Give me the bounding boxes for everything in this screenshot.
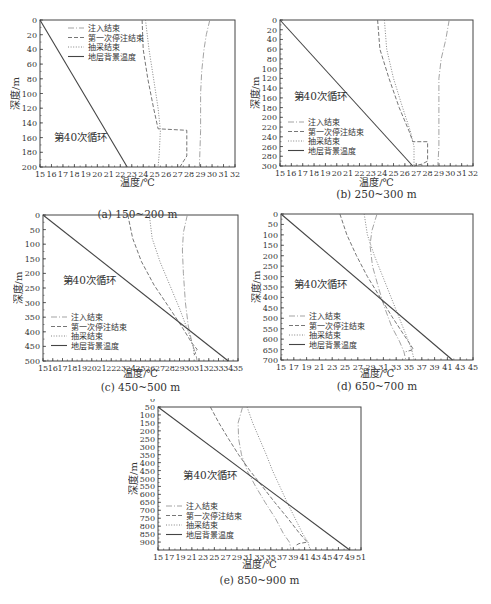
svg-text:450: 450 <box>263 304 278 313</box>
svg-text:地层背景温度: 地层背景温度 <box>308 146 356 156</box>
panel-caption-b: (b) 250~300 m <box>280 188 473 200</box>
chart-svg-b: 1516171819202122232425262728293031320204… <box>250 12 481 180</box>
svg-text:300: 300 <box>263 273 278 282</box>
svg-text:地层背景温度: 地层背景温度 <box>88 52 136 62</box>
cycle-label: 第40次循环 <box>63 274 116 286</box>
svg-text:抽采结束: 抽采结束 <box>186 520 218 530</box>
svg-text:50: 50 <box>268 220 278 229</box>
svg-text:第一次停注结束: 第一次停注结束 <box>71 322 127 332</box>
cycle-label: 第40次循环 <box>183 469 236 481</box>
svg-text:地层背景温度: 地层背景温度 <box>186 530 234 540</box>
series-dotted <box>146 20 161 167</box>
svg-text:0: 0 <box>273 210 278 219</box>
svg-text:40: 40 <box>267 35 277 44</box>
series-dotted <box>384 20 414 166</box>
svg-text:20: 20 <box>27 31 37 40</box>
svg-text:注入结束: 注入结束 <box>308 117 340 127</box>
svg-text:400: 400 <box>263 293 278 302</box>
svg-text:100: 100 <box>25 240 40 249</box>
svg-text:120: 120 <box>262 74 277 83</box>
y-axis-label: 深度/m <box>128 462 139 495</box>
svg-text:第一次停注结束: 第一次停注结束 <box>309 321 365 331</box>
svg-text:150: 150 <box>263 241 278 250</box>
svg-text:180: 180 <box>22 148 37 157</box>
svg-text:40: 40 <box>27 45 37 54</box>
svg-text:250: 250 <box>25 284 40 293</box>
svg-text:550: 550 <box>263 325 278 334</box>
svg-text:地层背景温度: 地层背景温度 <box>309 340 357 350</box>
series-dash-dot <box>199 20 209 167</box>
cycle-label: 第40次循环 <box>294 278 347 290</box>
svg-text:120: 120 <box>22 104 37 113</box>
svg-text:抽采结束: 抽采结束 <box>309 330 341 340</box>
svg-text:500: 500 <box>25 357 40 366</box>
chart-panel-e: 1517192123252729313335373941434547495105… <box>128 399 369 568</box>
cycle-label: 第40次循环 <box>294 90 347 102</box>
chart-panel-a: 1516171819202122232425262728293031320204… <box>10 12 243 185</box>
svg-text:200: 200 <box>25 269 40 278</box>
svg-text:50: 50 <box>30 226 40 235</box>
x-axis-label: 温度/℃ <box>158 556 361 571</box>
svg-text:第一次停注结束: 第一次停注结束 <box>186 511 242 521</box>
x-axis-label: 温度/℃ <box>40 174 235 189</box>
svg-text:100: 100 <box>22 90 37 99</box>
svg-text:500: 500 <box>263 314 278 323</box>
svg-text:140: 140 <box>22 119 37 128</box>
chart-svg-a: 1516171819202122232425262728293031320204… <box>10 12 243 181</box>
series-dotted <box>364 214 414 360</box>
series-dash-dot <box>370 214 406 360</box>
svg-text:350: 350 <box>263 283 278 292</box>
svg-text:350: 350 <box>25 313 40 322</box>
series-dash-dot <box>238 407 291 550</box>
svg-text:100: 100 <box>263 231 278 240</box>
svg-text:第一次停注结束: 第一次停注结束 <box>308 127 364 137</box>
svg-text:20: 20 <box>267 26 277 35</box>
x-axis-label: 温度/℃ <box>281 365 473 380</box>
series-dotted <box>247 407 310 548</box>
svg-text:260: 260 <box>262 143 277 152</box>
svg-text:注入结束: 注入结束 <box>88 23 120 33</box>
x-axis-label: 温度/℃ <box>280 174 473 189</box>
panel-caption-e: (e) 850~900 m <box>158 574 361 586</box>
svg-text:160: 160 <box>262 94 277 103</box>
svg-text:80: 80 <box>27 75 37 84</box>
legend: 注入结束第一次停注结束抽采结束地层背景温度 <box>68 23 144 62</box>
svg-text:0: 0 <box>272 16 277 25</box>
chart-panel-b: 1516171819202122232425262728293031320204… <box>250 12 481 184</box>
svg-text:第一次停注结束: 第一次停注结束 <box>88 33 144 43</box>
svg-text:300: 300 <box>262 162 277 171</box>
svg-text:60: 60 <box>267 45 277 54</box>
legend: 注入结束第一次停注结束抽采结束地层背景温度 <box>51 312 127 351</box>
svg-text:450: 450 <box>25 342 40 351</box>
svg-text:160: 160 <box>22 134 37 143</box>
svg-text:700: 700 <box>263 356 278 365</box>
svg-text:注入结束: 注入结束 <box>71 312 103 322</box>
svg-text:80: 80 <box>267 55 277 64</box>
svg-text:0: 0 <box>32 16 37 25</box>
series-dashed <box>128 215 197 355</box>
svg-text:200: 200 <box>263 252 278 261</box>
svg-text:注入结束: 注入结束 <box>186 501 218 511</box>
svg-text:220: 220 <box>262 123 277 132</box>
chart-svg-c: 1516171819202122232425262728293031323334… <box>13 207 246 375</box>
svg-text:抽采结束: 抽采结束 <box>88 42 120 52</box>
panel-caption-d: (d) 650~700 m <box>281 380 473 392</box>
series-dash-dot <box>438 20 449 166</box>
svg-text:400: 400 <box>25 328 40 337</box>
svg-text:200: 200 <box>262 113 277 122</box>
svg-text:地层背景温度: 地层背景温度 <box>71 341 119 351</box>
svg-text:240: 240 <box>262 133 277 142</box>
svg-text:100: 100 <box>262 65 277 74</box>
series-dotted <box>149 215 194 355</box>
panel-caption-c: (c) 450~500 m <box>43 381 238 393</box>
series-dashed <box>378 20 428 166</box>
svg-text:650: 650 <box>263 346 278 355</box>
svg-text:抽采结束: 抽采结束 <box>71 331 103 341</box>
legend: 注入结束第一次停注结束抽采结束地层背景温度 <box>289 311 365 350</box>
legend: 注入结束第一次停注结束抽采结束地层背景温度 <box>288 117 364 156</box>
y-axis-label: 深度/m <box>10 77 21 110</box>
svg-text:140: 140 <box>262 84 277 93</box>
svg-text:180: 180 <box>262 104 277 113</box>
y-axis-label: 深度/m <box>13 271 24 304</box>
legend: 注入结束第一次停注结束抽采结束地层背景温度 <box>166 501 242 540</box>
